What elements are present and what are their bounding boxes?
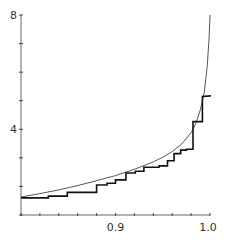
y-tick-label-8: 8 [10, 9, 17, 22]
y-tick-label-4: 4 [10, 123, 17, 136]
step-function-line [21, 96, 211, 198]
chart: 8 4 0.9 1.0 [0, 0, 229, 240]
smooth-curve-line [21, 15, 210, 197]
y-axis [19, 15, 23, 215]
plot-area [21, 15, 211, 198]
x-axis [21, 213, 210, 216]
x-tick-label-1.0: 1.0 [199, 221, 217, 234]
x-tick-label-0.9: 0.9 [107, 221, 125, 234]
